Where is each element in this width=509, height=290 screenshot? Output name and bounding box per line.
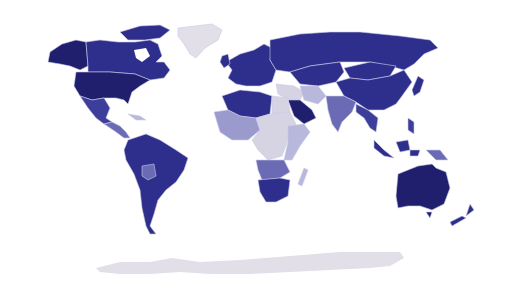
region-uk[interactable] [220,54,230,68]
region-indonesia[interactable] [374,140,420,158]
region-iran[interactable] [300,86,326,104]
map-svg [0,0,509,290]
region-angola-zambia[interactable] [256,160,290,180]
region-philippines[interactable] [408,118,414,134]
region-southern-africa[interactable] [258,178,290,202]
region-madagascar[interactable] [298,168,308,186]
region-east-africa[interactable] [284,124,310,160]
region-alaska[interactable] [48,40,88,70]
region-south-america[interactable] [124,134,188,234]
region-tasmania[interactable] [426,212,432,218]
region-antarctica[interactable] [96,252,404,274]
region-mexico[interactable] [80,96,112,124]
region-greenland[interactable] [178,24,222,58]
region-caribbean[interactable] [128,114,146,120]
region-japan[interactable] [412,76,424,96]
region-new-zealand[interactable] [450,204,474,226]
region-papua-new-guinea[interactable] [426,150,448,160]
region-europe[interactable] [226,44,276,86]
region-canada-islands[interactable] [120,25,170,40]
region-australia[interactable] [396,164,450,210]
world-choropleth-map [0,0,509,290]
region-central-america[interactable] [104,122,130,138]
region-india[interactable] [326,96,356,132]
region-egypt[interactable] [272,96,290,114]
